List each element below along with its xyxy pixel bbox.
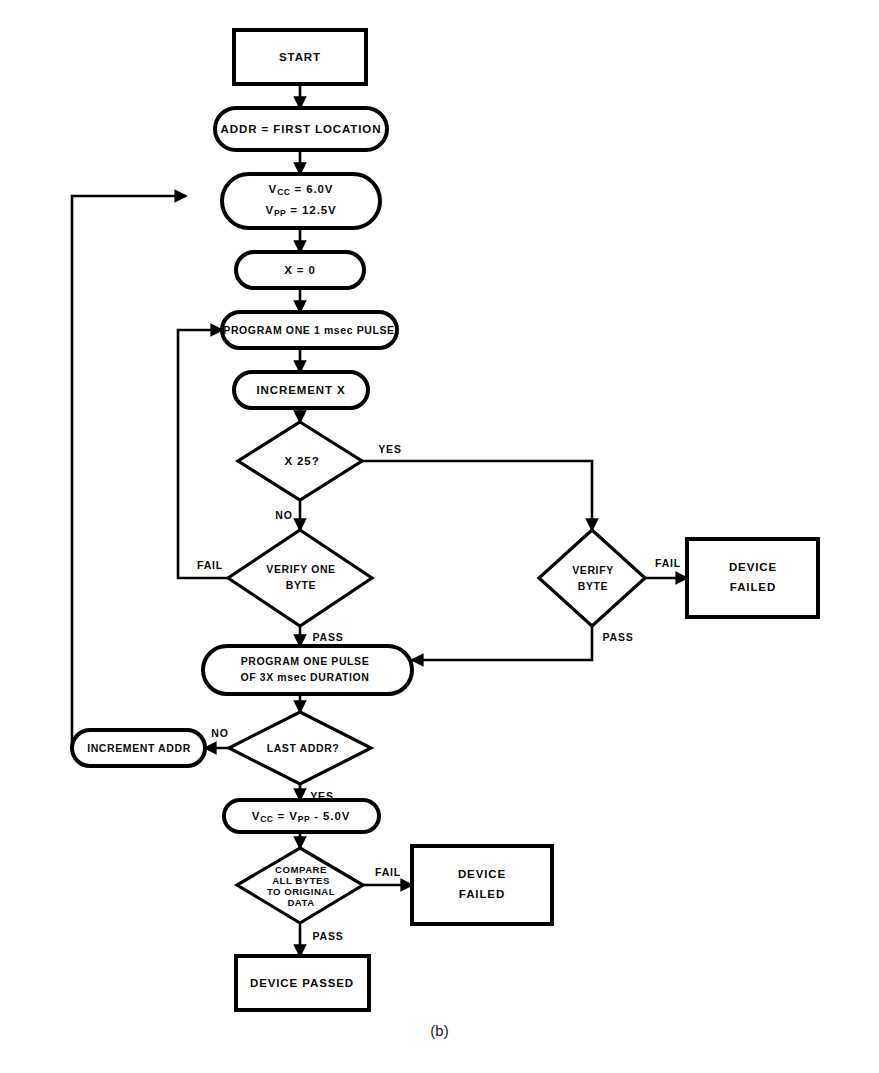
device-failed-bottom-box [412, 846, 552, 924]
edge-label-verifybyte-fail: FAIL [655, 557, 681, 569]
vcc2-subscript: CC [260, 814, 273, 824]
vcc-subscript: CC [277, 187, 290, 197]
vcc2-symbol: V [252, 810, 261, 822]
compare-line1: COMPARE [275, 864, 327, 875]
verify-one-byte-line1: VERIFY ONE [266, 563, 335, 575]
compare-line3: TO ORIGINAL [267, 886, 335, 897]
x-zero-label: X = 0 [284, 264, 316, 276]
node-program-3x: PROGRAM ONE PULSE OF 3X msec DURATION [203, 646, 412, 694]
node-verify-one-byte: VERIFY ONE BYTE [228, 530, 372, 626]
edge-label-x25-no: NO [275, 509, 292, 521]
compare-line4: DATA [287, 897, 314, 908]
edge-label-compare-pass: PASS [312, 930, 343, 942]
edge-label-x25-yes: YES [378, 443, 401, 455]
node-increment-x: INCREMENT X [234, 372, 368, 408]
verify-byte-diamond [539, 530, 645, 626]
flowchart-figure: START ADDR = FIRST LOCATION VCC = 6.0V V… [0, 0, 879, 1073]
node-verify-byte: VERIFY BYTE [539, 530, 645, 626]
device-passed-label: DEVICE PASSED [250, 977, 354, 989]
vcc-value: = 6.0V [290, 183, 333, 195]
last-addr-label: LAST ADDR? [267, 742, 340, 754]
device-failed-right-line2: FAILED [730, 581, 776, 593]
compare-line2: ALL BYTES [272, 875, 330, 886]
connector-x25-yes-to-verifybyte [362, 461, 592, 530]
device-failed-bottom-line2: FAILED [459, 888, 505, 900]
node-device-passed: DEVICE PASSED [236, 956, 369, 1010]
vcc2-mid: = V [273, 810, 297, 822]
connector-verifyone-fail-loop [178, 330, 238, 578]
edge-label-compare-fail: FAIL [375, 866, 401, 878]
verify-byte-line2: BYTE [578, 580, 608, 592]
vpp-value: = 12.5V [286, 204, 336, 216]
node-last-addr: LAST ADDR? [229, 712, 371, 784]
flowchart-canvas: START ADDR = FIRST LOCATION VCC = 6.0V V… [0, 0, 879, 1073]
increment-x-label: INCREMENT X [256, 384, 345, 396]
node-x-equals-25: X 25? [238, 422, 362, 500]
node-addr-first-location: ADDR = FIRST LOCATION [215, 108, 387, 150]
verify-byte-line1: VERIFY [572, 564, 614, 576]
node-program-one-pulse: PROGRAM ONE 1 msec PULSE [222, 312, 397, 348]
device-failed-bottom-line1: DEVICE [458, 868, 506, 880]
edge-label-verifyone-fail: FAIL [197, 559, 223, 571]
start-label: START [279, 51, 321, 63]
node-set-voltages: VCC = 6.0V VPP = 12.5V [222, 174, 380, 228]
edge-label-lastaddr-no: NO [211, 727, 228, 739]
node-increment-addr: INCREMENT ADDR [72, 730, 205, 766]
program-3x-line1: PROGRAM ONE PULSE [241, 655, 370, 667]
figure-caption: (b) [0, 1022, 879, 1039]
verify-one-byte-line2: BYTE [286, 579, 316, 591]
vpp-symbol: V [265, 204, 274, 216]
vcc2-value: - 5.0V [310, 810, 350, 822]
node-device-failed-bottom: DEVICE FAILED [412, 846, 552, 924]
vcc-symbol: V [269, 183, 278, 195]
node-device-failed-right: DEVICE FAILED [687, 539, 818, 617]
vpp2-subscript: PP [298, 814, 310, 824]
vpp-subscript: PP [274, 208, 286, 218]
program-3x-line2: OF 3X msec DURATION [240, 671, 369, 683]
edge-label-verifyone-pass: PASS [312, 631, 343, 643]
node-start: START [234, 30, 366, 84]
increment-addr-label: INCREMENT ADDR [87, 742, 191, 754]
connector-verifybyte-pass-to-program3x [412, 626, 592, 660]
program-one-pulse-label: PROGRAM ONE 1 msec PULSE [223, 324, 394, 336]
connector-incaddr-outer-loop [72, 196, 186, 748]
x-equals-25-label: X 25? [284, 455, 319, 467]
node-x-zero: X = 0 [236, 252, 364, 288]
edge-label-verifybyte-pass: PASS [602, 631, 633, 643]
node-compare-all-bytes: COMPARE ALL BYTES TO ORIGINAL DATA [237, 848, 363, 923]
device-failed-right-box [687, 539, 818, 617]
node-vcc-vpp-minus: VCC = VPP - 5.0V [224, 800, 379, 832]
device-failed-right-line1: DEVICE [729, 561, 777, 573]
addr-first-location-label: ADDR = FIRST LOCATION [221, 123, 382, 135]
